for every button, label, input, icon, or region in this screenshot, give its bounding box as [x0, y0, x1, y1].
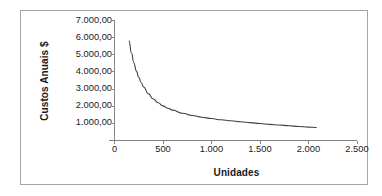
chart-container: Custos Anuais $ -1.000,002.000,003.000,0…	[0, 0, 382, 196]
axis-lines	[115, 21, 358, 141]
data-series-line	[129, 41, 316, 127]
x-axis-title: Unidades	[115, 167, 358, 178]
